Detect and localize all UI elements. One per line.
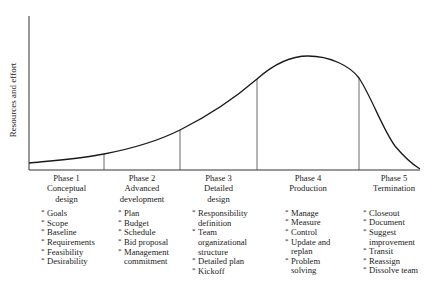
activity-item: Kickoff	[192, 267, 254, 277]
phase-1: Phase 1 Conceptual design Goals Scope Ba…	[29, 173, 104, 267]
phase-5: Phase 5 Termination Closeout Document Su…	[359, 173, 429, 276]
activity-item: Suggest improvement	[363, 228, 427, 247]
phase-4-name-line1: Production	[257, 183, 359, 193]
phase-1-name-line2: design	[29, 194, 104, 204]
phase-3-name-line2: design	[180, 194, 257, 204]
activity-item: Desirability	[41, 257, 104, 267]
activity-item: Problem solving	[285, 257, 345, 276]
activity-item: Team organizational structure	[192, 228, 254, 257]
life-cycle-chart	[0, 0, 435, 173]
y-axis-label: Resources and effort	[3, 60, 23, 140]
phase-3-label: Phase 3	[180, 173, 257, 183]
phase-2-label: Phase 2	[104, 173, 180, 183]
phase-1-name-line1: Conceptual	[29, 183, 104, 193]
phase-2-name-line2: development	[104, 194, 180, 204]
activity-item: Update and replan	[285, 238, 345, 257]
phase-1-activities: Goals Scope Baseline Requirements Feasib…	[41, 209, 104, 267]
effort-curve	[29, 56, 420, 169]
phase-5-name-line1: Termination	[359, 183, 429, 193]
activity-item: Dissolve team	[363, 266, 427, 276]
phase-2-name-line1: Advanced	[104, 183, 180, 193]
phase-3: Phase 3 Detailed design Responsibility d…	[180, 173, 257, 276]
phase-4-activities: Manage Measure Control Update and replan…	[285, 209, 345, 276]
phase-5-activities: Closeout Document Suggest improvement Tr…	[363, 209, 427, 276]
phase-4: Phase 4 Production Manage Measure Contro…	[257, 173, 359, 276]
activity-item: Management commitment	[118, 248, 178, 267]
phase-1-label: Phase 1	[29, 173, 104, 183]
phase-3-activities: Responsibility definition Team organizat…	[192, 209, 254, 276]
phase-5-label: Phase 5	[359, 173, 429, 183]
phase-2: Phase 2 Advanced development Plan Budget…	[104, 173, 180, 267]
activity-item: Responsibility definition	[192, 209, 254, 228]
phase-2-activities: Plan Budget Schedule Bid proposal Manage…	[118, 209, 178, 267]
phase-4-label: Phase 4	[257, 173, 359, 183]
phase-3-name-line1: Detailed	[180, 183, 257, 193]
